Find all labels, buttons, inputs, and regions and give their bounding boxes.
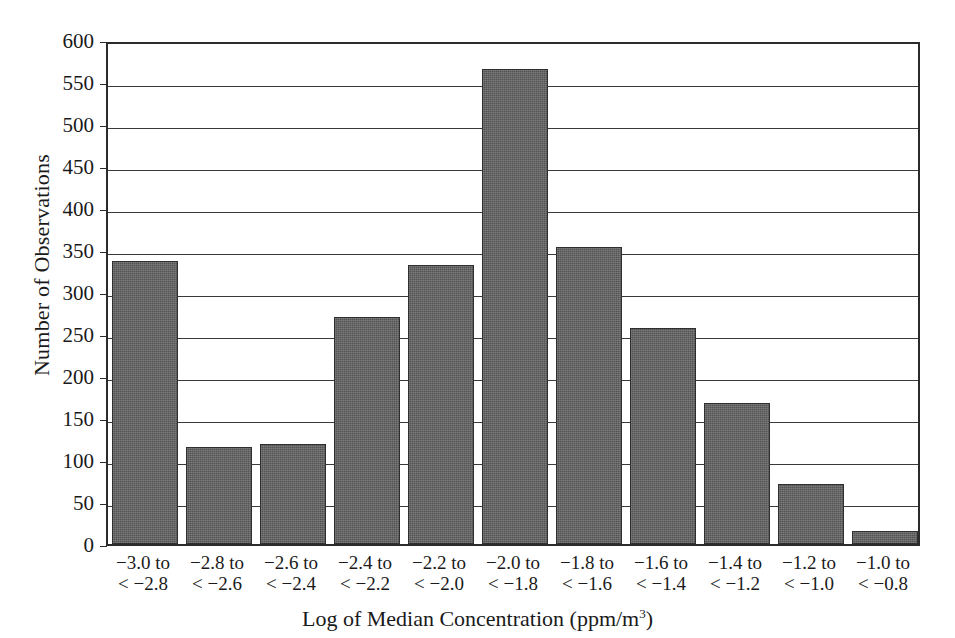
y-tick-label: 250 [0, 325, 94, 346]
x-tick-label-line1: −2.4 to [328, 552, 402, 573]
x-tick-label-line2: < −1.8 [476, 573, 550, 594]
histogram-bar [704, 403, 769, 544]
histogram-figure: Number of Observations 60055050045040035… [0, 0, 955, 638]
x-tick-label-line1: −1.4 to [698, 552, 772, 573]
y-tick-label: 200 [0, 367, 94, 388]
histogram-bar [630, 328, 695, 544]
x-axis-title-tail: ) [646, 606, 653, 631]
x-tick-label-line1: −1.8 to [550, 552, 624, 573]
histogram-bar [556, 247, 621, 544]
x-tick-label: −2.6 to< −2.4 [254, 552, 328, 595]
histogram-bar [482, 69, 547, 544]
y-tick-label: 450 [0, 157, 94, 178]
x-tick-label: −2.8 to< −2.6 [180, 552, 254, 595]
x-tick-label-line1: −2.8 to [180, 552, 254, 573]
x-tick-label-line1: −2.2 to [402, 552, 476, 573]
x-tick-label-line2: < −1.2 [698, 573, 772, 594]
y-tick-label: 400 [0, 199, 94, 220]
y-tick-label: 50 [0, 493, 94, 514]
x-tick-label-line2: < −1.4 [624, 573, 698, 594]
x-tick-label-line2: < −1.6 [550, 573, 624, 594]
histogram-bar [112, 261, 177, 544]
x-tick-label: −1.0 to< −0.8 [846, 552, 920, 595]
histogram-bar [778, 484, 843, 544]
x-axis-title-main: Log of Median Concentration (ppm/m [302, 606, 639, 631]
x-tick-label-line2: < −2.4 [254, 573, 328, 594]
x-tick-label: −1.8 to< −1.6 [550, 552, 624, 595]
x-tick-label-line2: < −1.0 [772, 573, 846, 594]
histogram-bar [852, 531, 917, 544]
x-tick-label: −1.2 to< −1.0 [772, 552, 846, 595]
x-tick-label-line2: < −0.8 [846, 573, 920, 594]
x-axis-title: Log of Median Concentration (ppm/m3) [0, 606, 955, 632]
histogram-bar [408, 265, 473, 544]
x-tick-label: −1.4 to< −1.2 [698, 552, 772, 595]
y-tick-label: 300 [0, 283, 94, 304]
x-tick-label-line2: < −2.8 [106, 573, 180, 594]
x-tick-label-line2: < −2.2 [328, 573, 402, 594]
plot-area [106, 42, 920, 546]
x-tick-label-line1: −2.6 to [254, 552, 328, 573]
y-tick-label: 100 [0, 451, 94, 472]
histogram-bar [186, 447, 251, 544]
x-tick-label: −2.0 to< −1.8 [476, 552, 550, 595]
x-tick-label-line1: −1.0 to [846, 552, 920, 573]
plot-inner [108, 44, 918, 544]
x-tick-label-line1: −3.0 to [106, 552, 180, 573]
x-tick-label: −2.4 to< −2.2 [328, 552, 402, 595]
y-tick-label: 150 [0, 409, 94, 430]
x-tick-label-line2: < −2.6 [180, 573, 254, 594]
x-tick-label: −1.6 to< −1.4 [624, 552, 698, 595]
y-tick-label: 350 [0, 241, 94, 262]
x-tick-label-line1: −1.2 to [772, 552, 846, 573]
y-tick-label: 0 [0, 535, 94, 556]
histogram-bar [334, 317, 399, 544]
x-tick-label: −2.2 to< −2.0 [402, 552, 476, 595]
histogram-bar [260, 444, 325, 544]
y-tick-label: 550 [0, 73, 94, 94]
x-tick-label: −3.0 to< −2.8 [106, 552, 180, 595]
x-tick-label-line1: −1.6 to [624, 552, 698, 573]
y-tick-label: 500 [0, 115, 94, 136]
y-tick-mark [100, 546, 107, 547]
y-tick-label: 600 [0, 31, 94, 52]
x-tick-label-line2: < −2.0 [402, 573, 476, 594]
x-tick-label-line1: −2.0 to [476, 552, 550, 573]
